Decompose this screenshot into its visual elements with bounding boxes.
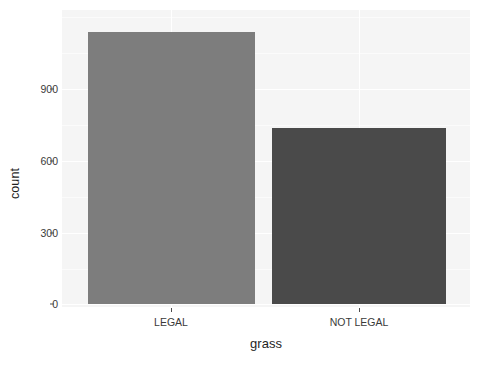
- y-tick-mark-600: [50, 161, 54, 162]
- bar-chart: count 900 600 300 0 LEGAL NOT LEGAL gras: [0, 0, 492, 367]
- y-tick-mark-300: [50, 233, 54, 234]
- x-tick-mark-not-legal: [359, 308, 360, 312]
- gridline-y-1200: [62, 17, 470, 18]
- x-tick-label-not-legal: NOT LEGAL: [330, 316, 389, 328]
- y-axis: 900 600 300 0: [0, 0, 58, 367]
- y-tick-mark-900: [50, 89, 54, 90]
- bar-not-legal[interactable]: [272, 128, 446, 304]
- x-tick-mark-legal: [171, 308, 172, 312]
- y-tick-mark-0: [50, 304, 54, 305]
- x-tick-label-legal: LEGAL: [154, 316, 188, 328]
- plot-panel: [62, 10, 470, 307]
- bar-legal[interactable]: [88, 32, 255, 304]
- x-axis-title: grass: [62, 336, 470, 351]
- gridline-y-0: [62, 304, 470, 305]
